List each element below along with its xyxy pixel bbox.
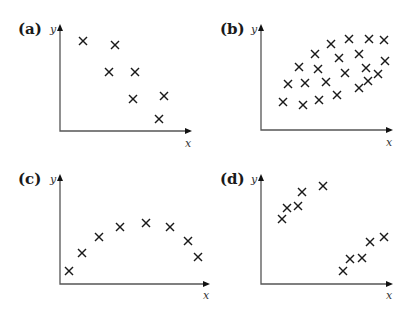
cross-marker-icon <box>355 50 363 58</box>
panel-a-x-label: x <box>185 137 192 150</box>
panel-c-axes <box>60 180 204 284</box>
cross-marker-icon <box>283 204 291 212</box>
cross-marker-icon <box>380 36 388 44</box>
panel-b-label: (b) <box>220 20 245 38</box>
panel-c: (c) y x <box>18 170 210 302</box>
cross-marker-icon <box>358 254 366 262</box>
panel-d: (d) y x <box>220 170 393 302</box>
cross-marker-icon <box>345 35 353 43</box>
cross-marker-icon <box>381 57 389 65</box>
cross-marker-icon <box>315 96 323 104</box>
cross-marker-icon <box>78 249 86 257</box>
panel-c-label: (c) <box>18 170 41 188</box>
cross-marker-icon <box>322 78 330 86</box>
x-arrow-icon <box>185 128 192 134</box>
cross-marker-icon <box>116 223 124 231</box>
cross-marker-icon <box>284 80 292 88</box>
panel-a-label: (a) <box>18 20 42 38</box>
cross-marker-icon <box>279 98 287 106</box>
cross-marker-icon <box>295 63 303 71</box>
cross-marker-icon <box>333 91 341 99</box>
y-arrow-icon <box>57 24 63 31</box>
cross-marker-icon <box>327 40 335 48</box>
panel-a-axes <box>60 30 186 131</box>
panel-a-markers <box>79 37 168 123</box>
panel-d-markers <box>278 182 388 275</box>
panel-d-axes <box>261 180 387 284</box>
panel-b: (b) y x <box>220 20 393 149</box>
cross-marker-icon <box>339 267 347 275</box>
y-arrow-icon <box>258 174 264 181</box>
x-arrow-icon <box>386 281 393 287</box>
cross-marker-icon <box>184 237 192 245</box>
panel-c-x-label: x <box>203 289 210 302</box>
cross-marker-icon <box>79 37 87 45</box>
cross-marker-icon <box>301 79 309 87</box>
cross-marker-icon <box>160 92 168 100</box>
cross-marker-icon <box>364 77 372 85</box>
cross-marker-icon <box>278 215 286 223</box>
cross-marker-icon <box>335 54 343 62</box>
cross-marker-icon <box>131 68 139 76</box>
cross-marker-icon <box>105 68 113 76</box>
cross-marker-icon <box>298 188 306 196</box>
cross-marker-icon <box>366 238 374 246</box>
cross-marker-icon <box>355 84 363 92</box>
panel-c-y-label: y <box>49 173 57 186</box>
cross-marker-icon <box>111 41 119 49</box>
cross-marker-icon <box>155 115 163 123</box>
cross-marker-icon <box>142 219 150 227</box>
cross-marker-icon <box>319 182 327 190</box>
y-arrow-icon <box>57 174 63 181</box>
panel-d-y-label: y <box>250 173 258 186</box>
panel-c-markers <box>65 219 202 275</box>
panel-b-y-label: y <box>250 23 258 36</box>
cross-marker-icon <box>129 95 137 103</box>
cross-marker-icon <box>341 69 349 77</box>
cross-marker-icon <box>166 223 174 231</box>
panel-d-label: (d) <box>220 170 245 188</box>
y-arrow-icon <box>258 24 264 31</box>
cross-marker-icon <box>362 64 370 72</box>
panel-b-markers <box>279 35 389 109</box>
cross-marker-icon <box>294 202 302 210</box>
x-arrow-icon <box>203 281 210 287</box>
cross-marker-icon <box>311 50 319 58</box>
panel-b-x-label: x <box>386 136 393 149</box>
cross-marker-icon <box>374 70 382 78</box>
cross-marker-icon <box>95 233 103 241</box>
cross-marker-icon <box>194 253 202 261</box>
cross-marker-icon <box>65 267 73 275</box>
cross-marker-icon <box>365 35 373 43</box>
cross-marker-icon <box>314 65 322 73</box>
scatter-figure: (a) y x (b) y x (c) y x (d) y x <box>0 0 413 322</box>
panel-a: (a) y x <box>18 20 192 150</box>
x-arrow-icon <box>386 127 393 133</box>
panel-d-x-label: x <box>386 289 393 302</box>
cross-marker-icon <box>380 233 388 241</box>
cross-marker-icon <box>299 101 307 109</box>
cross-marker-icon <box>346 255 354 263</box>
panel-a-y-label: y <box>49 23 57 36</box>
